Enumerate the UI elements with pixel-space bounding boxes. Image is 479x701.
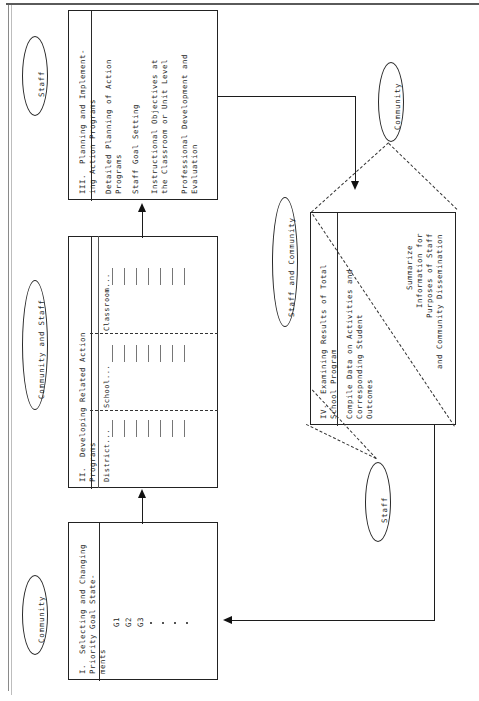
arrow-box-iv-to-box-i-shaft-vertical bbox=[434, 425, 435, 621]
arrow-box-iii-to-box-iv-shaft-vertical bbox=[355, 96, 356, 182]
box-i-goal-item-g3: G3 bbox=[136, 617, 146, 627]
arrow-box-i-to-box-ii-head bbox=[138, 489, 146, 498]
box-iii-title-line-1: III. Planning and Implement- bbox=[78, 49, 88, 194]
box-iii-item-3-line-2: the Classroom or Unit Level bbox=[160, 59, 170, 194]
box-i-goal-item-g1: G1 bbox=[112, 617, 122, 627]
arrow-box-ii-to-box-iii-head bbox=[138, 203, 146, 212]
box-iv-left-item-line-3: Outcomes bbox=[365, 379, 375, 419]
box-ii-title-line-1: II. Developing Related Action bbox=[78, 332, 88, 482]
oval-community-left-label: Community bbox=[37, 596, 46, 643]
oval-staff-top-label: Staff bbox=[37, 71, 46, 97]
arrow-box-ii-to-box-iii-shaft bbox=[142, 212, 143, 238]
box-iii-item-4-line-2: Evaluation bbox=[190, 144, 200, 194]
box-ii-column-label-rule bbox=[98, 236, 99, 488]
oval-staff-bottom-label: Staff bbox=[380, 497, 389, 523]
oval-staff-and-community-label: Staff and Community bbox=[287, 217, 296, 317]
box-ii-column-divider-1 bbox=[90, 410, 218, 411]
arrow-box-i-to-box-ii-shaft bbox=[142, 498, 143, 524]
box-i-title-line-2: Priority Goal State- bbox=[88, 574, 98, 674]
box-iv-left-item-line-1: Compile Data on Activities and bbox=[345, 269, 355, 419]
box-i-goal-item-g2: G2 bbox=[124, 617, 134, 627]
box-iv-left-item-line-2: Corresponding Student bbox=[355, 314, 365, 419]
box-iii-item-2-line-1: Staff Goal Setting bbox=[131, 104, 141, 194]
box-ii-column-label-classroom: Classroom... bbox=[102, 273, 111, 331]
box-i-title-line-3: ments bbox=[98, 649, 108, 674]
box-iii-item-4-line-1: Professional Development and bbox=[180, 54, 190, 194]
arrow-box-iii-to-box-iv-head bbox=[351, 181, 359, 190]
box-iv-right-item-line-3: Purposes of Staff bbox=[425, 233, 435, 318]
arrow-box-iv-to-box-i-head bbox=[223, 616, 232, 624]
box-iv-right-item-line-1: Summarize bbox=[405, 245, 415, 290]
box-iii-title-line-2: ing Action Programs bbox=[88, 99, 98, 194]
box-iii-item-1-line-1: Detailed Planning of Action bbox=[104, 59, 114, 194]
box-iv-right-item-line-4: and Community Dissemination bbox=[435, 234, 445, 369]
arrow-box-iv-to-box-i-shaft-horizontal bbox=[232, 620, 435, 621]
box-ii-title-line-2: Programs bbox=[88, 442, 98, 482]
box-iv-title-line-1: IV. Examining Results of Total bbox=[319, 264, 329, 419]
box-i-title-line-1: I. Selecting and Changing bbox=[78, 544, 88, 674]
box-iii-item-3-line-1: Instructional Objectives at bbox=[150, 59, 160, 194]
oval-community-and-staff-label: Community and Staff bbox=[37, 299, 46, 399]
box-ii-column-label-district: District... bbox=[102, 429, 111, 482]
page-edge-left-inner bbox=[11, 5, 12, 695]
box-iii-item-1-line-2: Programs bbox=[114, 154, 124, 194]
page-edge-left bbox=[8, 5, 9, 691]
box-iv-right-item-line-2: Information for bbox=[415, 233, 425, 308]
arrow-box-iii-to-box-iv-shaft-horizontal bbox=[218, 96, 356, 97]
oval-community-right-label: Community bbox=[393, 83, 402, 130]
box-ii-column-label-school: School... bbox=[102, 365, 111, 408]
page-edge-top bbox=[6, 3, 479, 5]
box-ii-column-divider-2 bbox=[90, 333, 218, 334]
